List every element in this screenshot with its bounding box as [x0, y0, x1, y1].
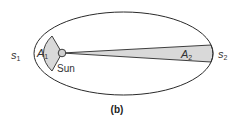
- label-sun: Sun: [57, 63, 75, 74]
- sun-icon: [58, 49, 66, 57]
- figure-caption: (b): [111, 104, 124, 115]
- label-s2: s2: [218, 48, 228, 61]
- label-s1: s1: [11, 49, 21, 62]
- kepler-second-law-diagram: s1 A1 Sun A2 s2 (b): [0, 0, 234, 128]
